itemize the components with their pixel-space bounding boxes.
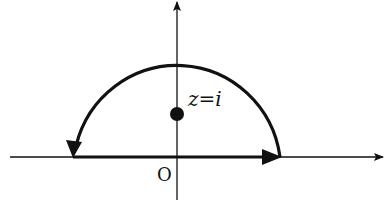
origin-label: O: [157, 164, 172, 185]
pole-label: z=i: [187, 87, 222, 111]
contour-diagram: z=i O: [0, 0, 391, 200]
pole-point: [170, 107, 184, 121]
arrow-down-icon: [66, 140, 82, 158]
